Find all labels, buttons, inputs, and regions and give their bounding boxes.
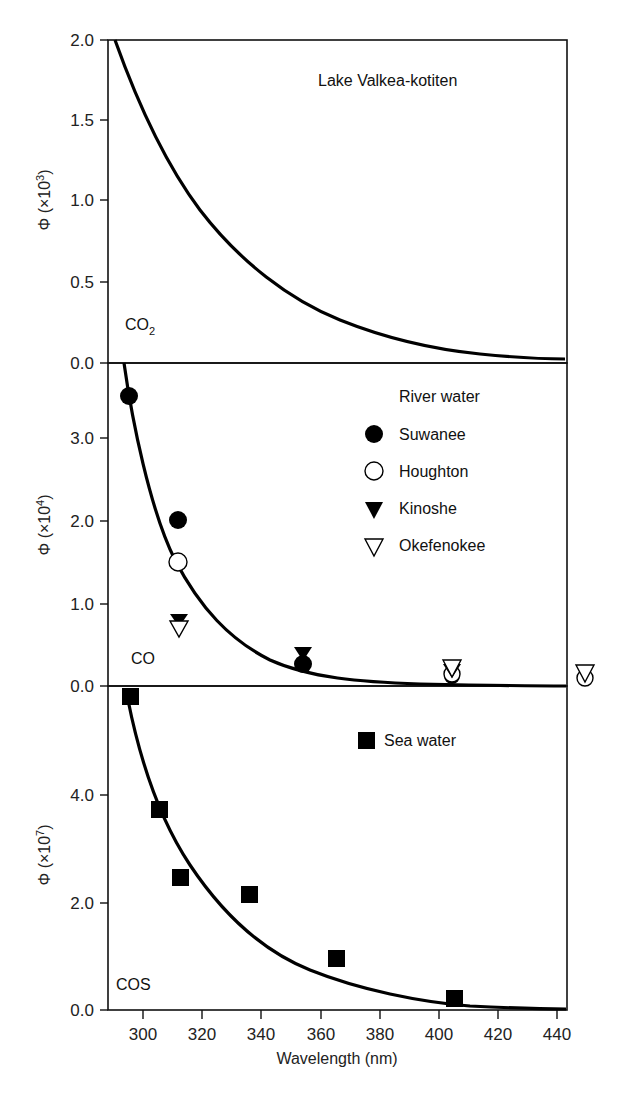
svg-text:0.0: 0.0 [70, 1001, 94, 1020]
legend-houghton-icon [365, 462, 383, 480]
legend-sea-water-icon [358, 732, 375, 749]
river-water-title: River water [399, 388, 481, 405]
svg-text:0.0: 0.0 [70, 677, 94, 696]
svg-text:360: 360 [307, 1025, 335, 1044]
svg-text:Suwanee: Suwanee [399, 426, 466, 443]
svg-text:300: 300 [129, 1025, 157, 1044]
svg-text:4.0: 4.0 [70, 786, 94, 805]
svg-text:340: 340 [247, 1025, 275, 1044]
svg-text:1.0: 1.0 [70, 595, 94, 614]
top-y-axis-title: Φ (×103) [34, 169, 53, 230]
svg-text:400: 400 [425, 1025, 453, 1044]
legend-suwanee-icon [365, 425, 383, 443]
houghton-points [169, 553, 593, 686]
svg-text:Okefenokee: Okefenokee [399, 537, 485, 554]
svg-text:Houghton: Houghton [399, 463, 468, 480]
svg-text:2.0: 2.0 [70, 894, 94, 913]
svg-text:3.0: 3.0 [70, 429, 94, 448]
top-ytick-labels: 2.0 1.5 1.0 0.5 0.0 [70, 31, 94, 373]
bottom-ytick-labels: 4.0 2.0 0.0 [70, 786, 94, 1020]
x-axis-title: Wavelength (nm) [276, 1050, 397, 1067]
svg-text:0.0: 0.0 [70, 354, 94, 373]
x-ticks [143, 1010, 557, 1019]
cos-species-label: COS [116, 976, 151, 993]
legend-okefenokee-icon [365, 539, 383, 556]
river-legend: Suwanee Houghton Kinoshe Okefenokee [365, 425, 485, 556]
kinoshe-points [170, 614, 461, 678]
sea-water-legend-label: Sea water [384, 732, 457, 749]
svg-text:2.0: 2.0 [70, 512, 94, 531]
middle-ytick-labels: 3.0 2.0 1.0 0.0 [70, 429, 94, 696]
svg-text:1.0: 1.0 [70, 191, 94, 210]
svg-text:420: 420 [484, 1025, 512, 1044]
svg-text:Φ (×103): Φ (×103) [34, 169, 53, 230]
okefenokee-points [170, 621, 594, 682]
legend-kinoshe-icon [365, 502, 383, 519]
svg-text:Kinoshe: Kinoshe [399, 500, 457, 517]
y-ticks [100, 40, 108, 1010]
top-panel-title: Lake Valkea-kotiten [318, 72, 457, 89]
middle-y-axis-title: Φ (×104) [34, 494, 53, 555]
svg-text:380: 380 [366, 1025, 394, 1044]
co-species-label: CO [131, 650, 155, 667]
figure: 2.0 1.5 1.0 0.5 0.0 3.0 2.0 1.0 0.0 4.0 … [0, 0, 623, 1096]
svg-text:0.5: 0.5 [70, 273, 94, 292]
cos-fit-curve [128, 700, 566, 1009]
co2-species-label: CO2 [125, 316, 155, 337]
svg-text:320: 320 [188, 1025, 216, 1044]
xtick-labels: 300 320 340 360 380 400 420 440 [129, 1025, 571, 1044]
bottom-y-axis-title: Φ (×107) [34, 824, 53, 885]
co-fit-curve [124, 363, 566, 686]
svg-text:Φ (×104): Φ (×104) [34, 494, 53, 555]
svg-text:440: 440 [543, 1025, 571, 1044]
svg-text:Φ (×107): Φ (×107) [34, 824, 53, 885]
svg-text:1.5: 1.5 [70, 111, 94, 130]
svg-text:2.0: 2.0 [70, 31, 94, 50]
